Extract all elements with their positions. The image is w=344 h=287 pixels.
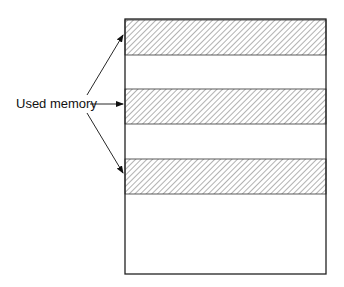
used-region-3	[125, 159, 326, 194]
arrow-to-region-3	[87, 113, 123, 173]
used-region-2	[125, 89, 326, 124]
memory-block	[125, 19, 326, 274]
used-region-1	[125, 20, 326, 55]
arrow-to-region-1	[87, 35, 123, 95]
memory-diagram	[0, 0, 344, 287]
used-memory-label: Used memory	[16, 96, 97, 111]
